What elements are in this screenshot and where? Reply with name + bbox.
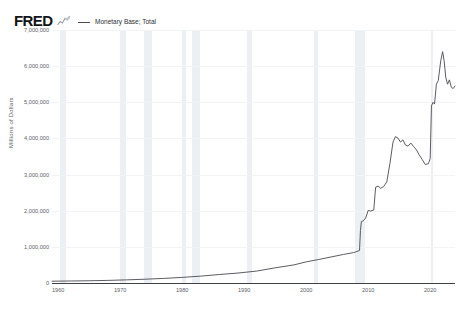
x-axis-line: [52, 283, 455, 284]
x-axis-tick-label: 2000: [300, 287, 312, 293]
x-axis-tick-label: 1990: [238, 287, 250, 293]
y-axis-tick-label: 6,000,000: [0, 63, 49, 69]
x-axis-tick-label: 1970: [114, 287, 126, 293]
plot-area: 01,000,0002,000,0003,000,0004,000,0005,0…: [52, 30, 455, 283]
series-line-monetary-base: [52, 30, 455, 283]
legend-swatch: [78, 22, 90, 23]
legend-label: Monetary Base; Total: [95, 18, 156, 26]
x-axis-tick-label: 1960: [52, 287, 64, 293]
series-path: [52, 52, 455, 282]
chart-legend: Monetary Base; Total: [78, 16, 156, 28]
y-axis-tick-label: 2,000,000: [0, 208, 49, 214]
y-axis-tick-label: 7,000,000: [0, 27, 49, 33]
fred-chart-page: FRED Monetary Base; Total 01,000,0002,00…: [0, 0, 464, 317]
y-axis-tick-label: 1,000,000: [0, 244, 49, 250]
x-axis-tick-label: 2020: [424, 287, 436, 293]
y-axis-tick-label: 0: [0, 280, 49, 286]
mini-line-chart-icon: [57, 15, 70, 26]
x-axis-tick-label: 1980: [176, 287, 188, 293]
fred-logo: FRED: [14, 13, 52, 28]
chart-header: FRED Monetary Base; Total: [0, 0, 464, 34]
y-axis-tick-label: 3,000,000: [0, 172, 49, 178]
x-axis-tick-label: 2010: [362, 287, 374, 293]
y-axis-label: Millions of Dollars: [8, 97, 14, 148]
